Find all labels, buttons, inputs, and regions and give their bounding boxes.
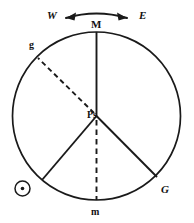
label-g-upper: G: [161, 184, 169, 195]
label-center-ps: Ps: [87, 110, 97, 120]
radius-lower-left: [42, 116, 97, 180]
sun-symbol-center-dot: [21, 187, 25, 191]
radius-to-g-dashed: [38, 58, 94, 113]
label-m-lower: m: [91, 207, 99, 217]
label-meridian-top: M: [91, 19, 101, 30]
figure-container: W E M g Ps G m: [0, 0, 194, 223]
label-east: E: [139, 10, 146, 21]
label-west: W: [47, 10, 57, 21]
label-g-lower: g: [29, 40, 34, 50]
sun-symbol-icon: [15, 181, 30, 196]
radius-to-g-cap: [97, 116, 158, 177]
